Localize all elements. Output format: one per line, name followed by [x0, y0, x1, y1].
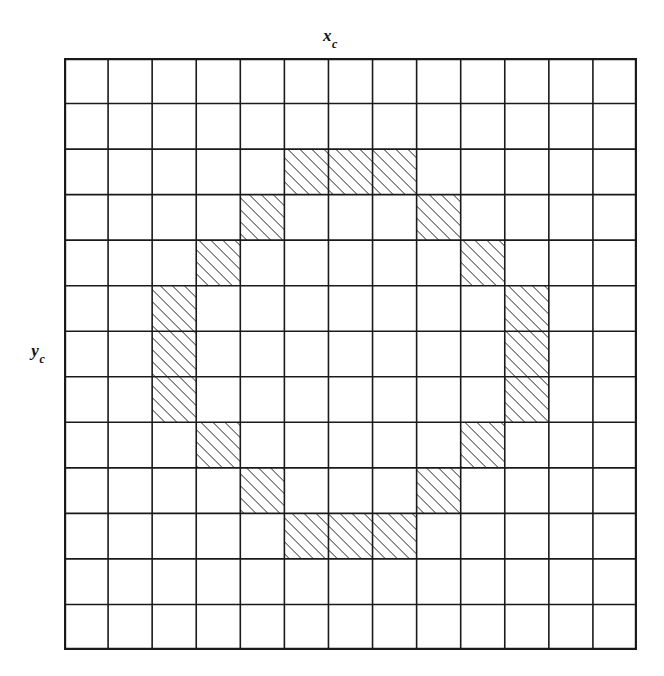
grid-cell-shaded — [505, 331, 549, 377]
grid-cell-shaded — [461, 422, 505, 468]
grid-cell-shaded — [152, 331, 196, 377]
pixel-grid — [64, 58, 637, 650]
grid-canvas — [64, 58, 637, 650]
grid-cell-shaded — [328, 149, 372, 195]
grid-cell-shaded — [152, 377, 196, 423]
grid-cell-shaded — [417, 195, 461, 241]
raster-circle-figure: xc yc — [0, 0, 664, 676]
grid-cell-shaded — [373, 149, 417, 195]
grid-cell-shaded — [240, 468, 284, 514]
x-axis-label: xc — [323, 26, 337, 49]
grid-cell-shaded — [328, 513, 372, 559]
grid-cell-shaded — [417, 468, 461, 514]
y-axis-label: yc — [31, 341, 44, 364]
grid-cell-shaded — [196, 422, 240, 468]
grid-cell-shaded — [505, 377, 549, 423]
grid-cell-shaded — [373, 513, 417, 559]
grid-cell-shaded — [284, 513, 328, 559]
x-axis-label-base: x — [323, 26, 332, 45]
grid-cell-shaded — [240, 195, 284, 241]
grid-cell-shaded — [461, 240, 505, 286]
grid-cell-shaded — [505, 286, 549, 332]
grid-cell-shaded — [152, 286, 196, 332]
grid-cell-shaded — [284, 149, 328, 195]
grid-lines-layer — [64, 58, 637, 650]
y-axis-label-base: y — [31, 341, 39, 360]
shaded-cells-layer — [152, 149, 549, 559]
grid-cell-shaded — [196, 240, 240, 286]
x-axis-label-subscript: c — [332, 37, 338, 51]
y-axis-label-subscript: c — [40, 352, 46, 366]
